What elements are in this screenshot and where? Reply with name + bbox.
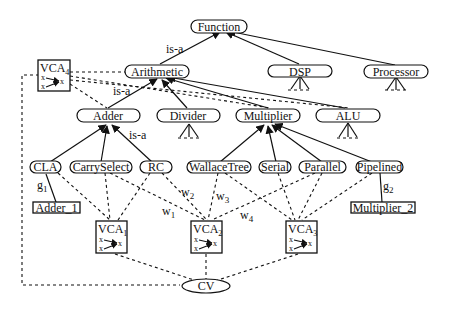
edge-wallacetree-multiplier xyxy=(220,125,264,162)
edge-cla-adder1 xyxy=(46,174,56,202)
svg-text:Multiplier: Multiplier xyxy=(244,109,293,123)
node-parallel[interactable]: Parallel xyxy=(299,160,346,174)
svg-text:Parallel: Parallel xyxy=(304,160,341,174)
label-isa-function: is-a xyxy=(166,42,184,56)
edge-rc-vca1 xyxy=(118,173,150,220)
label-w4: w4 xyxy=(240,208,254,224)
node-function[interactable]: Function xyxy=(191,20,247,34)
vca-box-1[interactable]: VCA1 x x x xyxy=(96,221,127,253)
node-multiplier[interactable]: Multiplier xyxy=(236,109,300,123)
svg-text:Processor: Processor xyxy=(373,65,420,79)
edge-pipelined-multiplier xyxy=(275,124,372,162)
svg-text:x: x xyxy=(99,235,103,244)
edge-wallacetree-vca3 xyxy=(225,173,292,220)
node-arithmetic[interactable]: Arithmetic xyxy=(125,65,189,79)
svg-text:x: x xyxy=(118,239,122,248)
edge-carryselect-vca1 xyxy=(105,173,110,220)
svg-text:Adder_1: Adder_1 xyxy=(36,201,78,215)
svg-text:CV: CV xyxy=(198,279,215,293)
node-processor[interactable]: Processor xyxy=(364,65,428,79)
svg-text:DSP: DSP xyxy=(289,65,311,79)
node-wallacetree[interactable]: WallaceTree xyxy=(187,160,251,174)
svg-text:Adder: Adder xyxy=(93,109,123,123)
svg-text:x: x xyxy=(194,235,198,244)
edge-carryselect-adder xyxy=(101,126,107,162)
edge-cla-adder xyxy=(50,125,106,162)
taxonomy-diagram: is-a is-a is-a g1 g2 w1 w2 w3 w4 Functio… xyxy=(0,0,449,311)
edge-pipelined-multiplier2 xyxy=(380,173,382,202)
node-alu[interactable]: ALU xyxy=(316,109,380,123)
vca-box-4[interactable]: VCA4 x x x xyxy=(38,60,70,91)
edge-vca4-multiplier xyxy=(70,76,270,108)
label-isa-arithmetic: is-a xyxy=(113,84,131,98)
node-multiplier-2[interactable]: Multiplier_2 xyxy=(351,201,415,215)
svg-text:x: x xyxy=(41,82,45,91)
node-pipelined[interactable]: Pipelined xyxy=(356,160,403,174)
label-g1: g1 xyxy=(37,178,48,194)
svg-text:x: x xyxy=(289,235,293,244)
svg-text:CLA: CLA xyxy=(34,160,58,174)
label-g2: g2 xyxy=(383,179,394,195)
svg-text:x: x xyxy=(41,73,45,82)
svg-text:Pipelined: Pipelined xyxy=(357,160,402,174)
node-dsp[interactable]: DSP xyxy=(268,65,332,79)
node-cv[interactable]: CV xyxy=(182,279,230,293)
svg-text:Divider: Divider xyxy=(170,109,207,123)
vca-nodes: VCA4 x x x VCA1 x x x VCA2 xyxy=(38,60,317,253)
svg-text:Multiplier_2: Multiplier_2 xyxy=(353,201,414,215)
node-cla[interactable]: CLA xyxy=(30,160,61,174)
svg-text:RC: RC xyxy=(148,160,164,174)
edge-parallel-vca3 xyxy=(298,173,322,220)
edge-serial-multiplier xyxy=(268,126,276,162)
label-isa-adder: is-a xyxy=(129,128,147,142)
node-adder[interactable]: Adder xyxy=(77,109,140,123)
svg-text:x: x xyxy=(60,77,64,86)
svg-text:WallaceTree: WallaceTree xyxy=(189,160,249,174)
edge-vca1-cv xyxy=(115,254,200,282)
edge-dsp-function xyxy=(226,32,299,64)
svg-text:CarrySelect: CarrySelect xyxy=(73,160,130,174)
node-divider[interactable]: Divider xyxy=(157,109,220,123)
svg-text:x: x xyxy=(289,244,293,253)
node-rc[interactable]: RC xyxy=(140,160,172,174)
vca-box-2[interactable]: VCA2 x x x xyxy=(191,221,222,253)
edge-alu-arithmetic xyxy=(168,77,345,108)
svg-text:Function: Function xyxy=(198,20,241,34)
edge-labels: is-a is-a is-a g1 g2 w1 w2 w3 w4 xyxy=(37,42,394,224)
svg-text:x: x xyxy=(213,239,217,248)
svg-text:Arithmetic: Arithmetic xyxy=(131,65,183,79)
edge-serial-vca3 xyxy=(278,173,295,220)
edge-parallel-multiplier xyxy=(272,125,322,162)
node-serial[interactable]: Serial xyxy=(259,160,291,174)
svg-text:Serial: Serial xyxy=(261,160,290,174)
stub-divider xyxy=(180,124,198,137)
node-carryselect[interactable]: CarrySelect xyxy=(70,160,132,174)
edge-processor-function xyxy=(228,31,395,65)
stub-alu xyxy=(339,123,357,137)
svg-text:ALU: ALU xyxy=(336,109,361,123)
label-w2: w2 xyxy=(181,185,194,201)
label-w3: w3 xyxy=(216,189,230,205)
edge-vca4-adder xyxy=(70,84,107,108)
edge-vca3-cv xyxy=(212,254,298,282)
node-adder-1[interactable]: Adder_1 xyxy=(33,201,80,215)
edge-multiplier-arithmetic xyxy=(166,78,268,108)
label-w1: w1 xyxy=(162,204,175,220)
vca-box-3[interactable]: VCA3 x x x xyxy=(286,221,317,253)
svg-text:x: x xyxy=(194,244,198,253)
svg-text:x: x xyxy=(99,244,103,253)
svg-text:x: x xyxy=(308,239,312,248)
